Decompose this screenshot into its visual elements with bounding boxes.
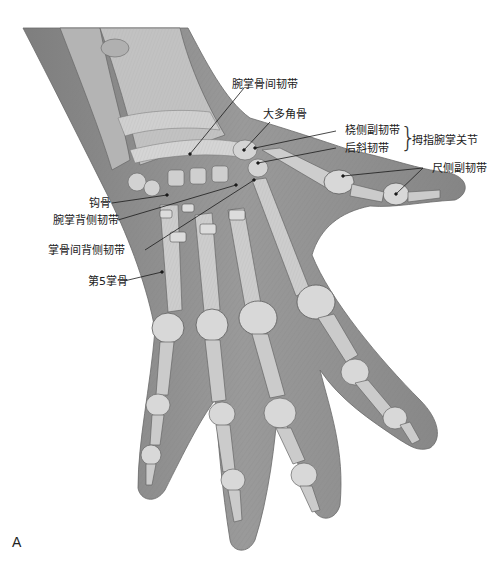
label-hamate: 钩骨 bbox=[89, 197, 111, 210]
panel-letter: A bbox=[12, 534, 21, 550]
label-trapezium: 大多角骨 bbox=[263, 108, 307, 121]
label-fifth-metacarpal: 第5掌骨 bbox=[88, 275, 128, 288]
label-dorsal-carpometacarpal-ligament: 腕掌背侧韧带 bbox=[53, 214, 119, 227]
label-ulnar-collateral-ligament: 尺侧副韧带 bbox=[432, 162, 487, 175]
label-radial-collateral-ligament: 桡侧副韧带 bbox=[345, 124, 400, 137]
label-dorsal-intermetacarpal-ligament: 掌骨间背侧韧带 bbox=[48, 244, 125, 257]
label-intermetacarpal-ligament: 腕掌骨间韧带 bbox=[232, 78, 298, 91]
label-posterior-oblique-ligament: 后斜韧带 bbox=[345, 142, 389, 155]
label-thumb-cmc-joint: 拇指腕掌关节 bbox=[412, 134, 478, 147]
